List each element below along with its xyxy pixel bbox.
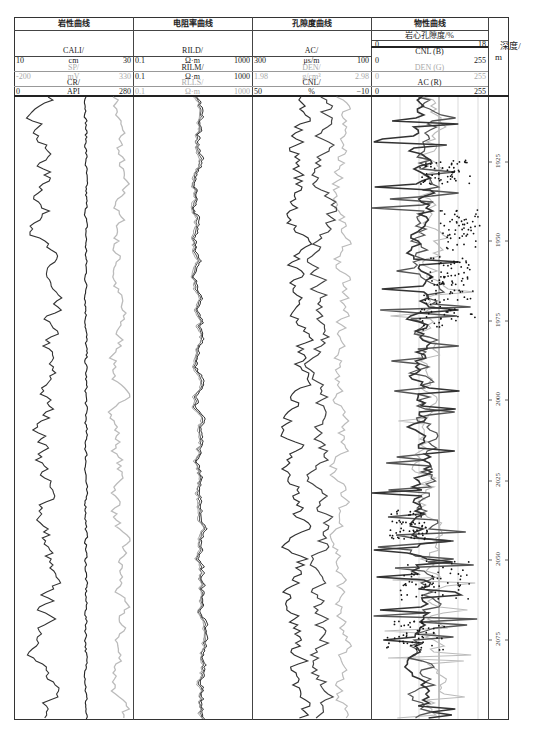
- depth-tick-label: 1925: [494, 149, 502, 173]
- core-porosity-point: [440, 262, 442, 264]
- core-porosity-point: [422, 329, 424, 331]
- core-porosity-point: [473, 233, 475, 235]
- core-porosity-point: [458, 290, 460, 292]
- core-porosity-point: [439, 283, 441, 285]
- core-porosity-point: [388, 642, 390, 644]
- core-porosity-point: [458, 589, 460, 591]
- core-porosity-point: [402, 521, 404, 523]
- core-porosity-point: [462, 278, 464, 280]
- core-porosity-point: [450, 275, 452, 277]
- core-porosity-point: [407, 624, 409, 626]
- depth-tick-label: 2075: [494, 627, 502, 651]
- core-porosity-point: [415, 514, 417, 516]
- core-porosity-point: [405, 583, 407, 585]
- core-porosity-point: [415, 535, 417, 537]
- log-curve: [108, 97, 130, 718]
- core-porosity-point: [434, 299, 436, 301]
- core-porosity-point: [453, 312, 455, 314]
- core-porosity-point: [436, 326, 438, 328]
- core-porosity-point: [452, 282, 454, 284]
- core-porosity-point: [439, 649, 441, 651]
- core-porosity-point: [396, 522, 398, 524]
- core-porosity-point: [422, 320, 424, 322]
- core-porosity-point: [410, 537, 412, 539]
- core-porosity-point: [420, 311, 422, 313]
- core-porosity-point: [439, 301, 441, 303]
- core-porosity-point: [466, 233, 468, 235]
- core-porosity-point: [406, 634, 408, 636]
- core-porosity-point: [456, 215, 458, 217]
- core-porosity-point: [431, 575, 433, 577]
- core-porosity-point: [447, 181, 449, 183]
- core-porosity-point: [442, 281, 444, 283]
- core-porosity-point: [457, 582, 459, 584]
- core-porosity-point: [460, 575, 462, 577]
- core-porosity-point: [391, 520, 393, 522]
- core-porosity-point: [474, 215, 476, 217]
- core-porosity-point: [463, 296, 465, 298]
- core-porosity-point: [396, 513, 398, 515]
- core-porosity-point: [447, 582, 449, 584]
- depth-tick-label: 2025: [494, 468, 502, 492]
- core-porosity-point: [425, 165, 427, 167]
- core-porosity-point: [458, 273, 460, 275]
- core-porosity-point: [479, 225, 481, 227]
- core-porosity-point: [430, 257, 432, 259]
- core-porosity-point: [438, 263, 440, 265]
- core-porosity-point: [440, 161, 442, 163]
- core-porosity-point: [448, 166, 450, 168]
- core-porosity-point: [472, 221, 474, 223]
- core-porosity-point: [413, 574, 415, 576]
- core-porosity-point: [400, 594, 402, 596]
- core-porosity-point: [424, 537, 426, 539]
- log-curve: [27, 97, 62, 718]
- core-porosity-point: [443, 299, 445, 301]
- core-porosity-point: [467, 276, 469, 278]
- core-porosity-point: [426, 560, 428, 562]
- core-porosity-point: [465, 218, 467, 220]
- core-porosity-point: [430, 166, 432, 168]
- core-porosity-point: [436, 162, 438, 164]
- core-porosity-point: [447, 169, 449, 171]
- core-porosity-point: [455, 229, 457, 231]
- core-porosity-point: [459, 579, 461, 581]
- core-porosity-point: [423, 522, 425, 524]
- core-porosity-point: [453, 167, 455, 169]
- core-porosity-point: [403, 538, 405, 540]
- core-porosity-point: [463, 243, 465, 245]
- core-porosity-point: [459, 237, 461, 239]
- log-curve: [84, 97, 87, 719]
- core-porosity-point: [430, 163, 432, 165]
- core-porosity-point: [431, 645, 433, 647]
- core-porosity-point: [447, 241, 449, 243]
- core-porosity-point: [468, 583, 470, 585]
- core-porosity-point: [429, 271, 431, 273]
- core-porosity-point: [411, 581, 413, 583]
- core-porosity-point: [401, 523, 403, 525]
- core-porosity-point: [393, 538, 395, 540]
- core-porosity-point: [458, 169, 460, 171]
- core-porosity-point: [433, 632, 435, 634]
- core-porosity-point: [443, 314, 445, 316]
- core-porosity-point: [403, 575, 405, 577]
- core-porosity-point: [453, 261, 455, 263]
- core-porosity-point: [436, 637, 438, 639]
- core-porosity-point: [440, 271, 442, 273]
- core-porosity-point: [437, 598, 439, 600]
- core-porosity-point: [416, 648, 418, 650]
- core-porosity-point: [422, 534, 424, 536]
- core-porosity-point: [426, 316, 428, 318]
- core-porosity-point: [400, 625, 402, 627]
- core-porosity-point: [470, 298, 472, 300]
- core-porosity-point: [442, 567, 444, 569]
- core-porosity-point: [456, 261, 458, 263]
- core-porosity-point: [466, 222, 468, 224]
- core-porosity-point: [426, 303, 428, 305]
- core-porosity-point: [409, 622, 411, 624]
- core-porosity-point: [469, 175, 471, 177]
- core-porosity-point: [446, 236, 448, 238]
- log-curve: [372, 97, 461, 718]
- core-porosity-point: [468, 229, 470, 231]
- core-porosity-point: [411, 573, 413, 575]
- core-porosity-point: [462, 569, 464, 571]
